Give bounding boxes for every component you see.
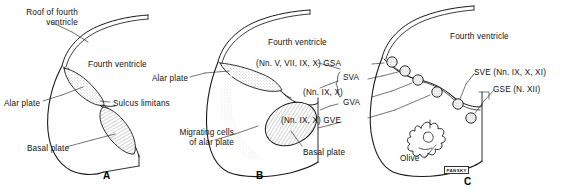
panel-a-label-basal-plate: Basal plate — [27, 144, 69, 154]
panel-b-label-fourth-ventricle: Fourth ventricle — [268, 38, 327, 48]
panel-c-label-olive: Olive — [400, 154, 419, 164]
gve-nucleus — [432, 87, 442, 97]
panel-b-label-gve-nerves: (Nn. IX, X) GVE — [281, 116, 341, 126]
panel-c-label-gse-nerve: GSE (N. XII) — [493, 85, 540, 95]
gsa-nucleus — [387, 57, 397, 67]
panel-letter-c: C — [464, 176, 471, 187]
panel-a-label-alar-plate: Alar plate — [4, 99, 40, 109]
gva-nucleus — [413, 75, 423, 85]
panel-b-label-migrating-cells-of-alar-plate: Migrating cells of alar plate — [166, 128, 234, 147]
medulla-development-figure: Roof of fourth ventricle Fourth ventricl… — [0, 0, 562, 194]
panel-b-label-gsa-nerves: (Nn. V, VII, IX, X) GSA — [256, 59, 341, 69]
panel-b-label-gva: GVA — [343, 98, 360, 108]
panel-letter-a: A — [103, 170, 110, 181]
panel-b-label-alar-plate: Alar plate — [152, 74, 188, 84]
sva-nucleus — [400, 66, 410, 76]
panel-a-label-fourth-ventricle: Fourth ventricle — [88, 60, 147, 70]
artist-signature: PANSKY — [444, 166, 469, 174]
panel-c-label-sve-nerves: SVE (Nn. IX, X, XI) — [474, 68, 546, 78]
panel-a-label-roof-of-fourth-ventricle: Roof of fourth ventricle — [6, 8, 78, 27]
panel-c-label-fourth-ventricle: Fourth ventricle — [450, 32, 509, 42]
cranial-nerve-nuclei-group — [387, 57, 476, 123]
panel-a-label-sulcus-limitans: Sulcus limitans — [113, 99, 170, 109]
panel-b-label-sva-gva-nerves: (Nn. IX, X) — [303, 88, 343, 98]
panel-letter-b: B — [256, 170, 263, 181]
panel-b-label-sva: SVA — [343, 73, 359, 83]
panel-b-label-basal-plate: Basal plate — [303, 148, 345, 158]
diagram-artwork — [0, 0, 562, 194]
gse-nucleus — [466, 113, 476, 123]
sve-nucleus — [453, 99, 463, 109]
